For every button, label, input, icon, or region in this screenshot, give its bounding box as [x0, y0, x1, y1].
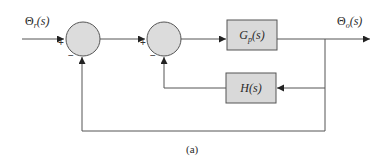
- figure-caption: (a): [186, 143, 198, 155]
- output-arg: (s): [350, 14, 363, 28]
- sum1-minus-sign: −: [68, 50, 74, 61]
- input-symbol: Θ: [25, 14, 34, 28]
- block-diagram-canvas: [0, 0, 391, 161]
- plant-name: G: [239, 28, 248, 42]
- input-label: Θr(s): [25, 14, 49, 30]
- inner-loop-return-line: [164, 57, 226, 88]
- output-label: Θo(s): [337, 14, 362, 30]
- feedback-name: H: [240, 81, 249, 95]
- sum2-minus-sign: −: [150, 50, 156, 61]
- feedback-arg: (s): [249, 81, 262, 95]
- sum1-plus-sign: +: [58, 37, 64, 48]
- outer-feedback-line: [82, 57, 325, 131]
- input-arg: (s): [37, 14, 50, 28]
- plant-block-label: Gp(s): [227, 20, 277, 50]
- output-symbol: Θ: [337, 14, 346, 28]
- sum2-plus-sign: +: [140, 37, 146, 48]
- plant-arg: (s): [252, 28, 265, 42]
- feedback-block-label: H(s): [226, 73, 276, 103]
